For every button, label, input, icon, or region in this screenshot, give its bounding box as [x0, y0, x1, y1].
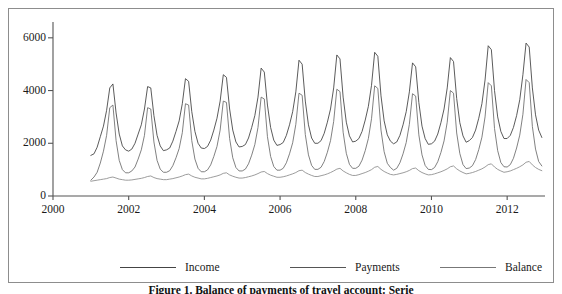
y-tick-label: 2000: [2, 136, 46, 148]
figure-root: 0200040006000 20002002200420062008201020…: [0, 0, 562, 294]
x-tick-label: 2006: [257, 203, 303, 215]
x-tick-label: 2000: [30, 203, 76, 215]
legend-item-income: Income: [120, 261, 219, 273]
series-line-income: [91, 43, 542, 155]
legend-swatch-line: [440, 267, 496, 268]
legend-label: Income: [185, 261, 219, 273]
y-tick-label: 4000: [2, 84, 46, 96]
x-tick-label: 2004: [181, 203, 227, 215]
series-line-payments: [91, 79, 542, 180]
legend-item-balance: Balance: [440, 261, 542, 273]
figure-caption: Figure 1. Balance of payments of travel …: [0, 284, 562, 294]
legend: IncomePaymentsBalance: [20, 258, 540, 276]
legend-label: Balance: [505, 261, 542, 273]
chart-canvas: [0, 0, 562, 294]
legend-swatch-line: [120, 267, 176, 268]
x-tick-label: 2012: [484, 203, 530, 215]
x-tick-label: 2002: [106, 203, 152, 215]
y-tick-label: 6000: [2, 31, 46, 43]
legend-item-payments: Payments: [290, 261, 400, 273]
legend-swatch-line: [290, 267, 346, 268]
legend-label: Payments: [355, 261, 400, 273]
y-tick-label: 0: [2, 189, 46, 201]
x-tick-label: 2008: [333, 203, 379, 215]
x-tick-label: 2010: [408, 203, 454, 215]
